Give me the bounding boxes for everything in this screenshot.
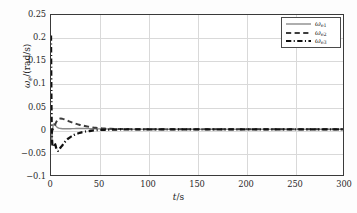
y-axis-unit: /(rad/s) xyxy=(22,44,32,77)
legend-item[interactable]: ωe3 xyxy=(285,37,338,46)
x-tick-label: 250 xyxy=(275,179,315,189)
figure-canvas: 0.250.20.150.10.050−0.05−0.1 05010015020… xyxy=(0,0,357,213)
x-tick-label: 300 xyxy=(324,179,357,189)
legend-line-swatch xyxy=(285,20,312,28)
legend-item[interactable]: ωe2 xyxy=(285,29,338,38)
y-axis-label: ωe/(rad/s) xyxy=(22,0,34,146)
x-axis-label: t/s xyxy=(0,192,357,202)
y-axis-symbol: ω xyxy=(22,81,32,88)
legend-label: ωe3 xyxy=(315,37,327,45)
legend-label: ωe1 xyxy=(315,20,327,28)
x-axis-unit: /s xyxy=(176,192,184,202)
legend-label: ωe2 xyxy=(315,29,327,37)
y-tick-label: −0.05 xyxy=(0,148,46,158)
x-tick-label: 100 xyxy=(128,179,168,189)
series-line-ωe3 xyxy=(51,36,343,151)
x-tick-label: 200 xyxy=(226,179,266,189)
legend-item[interactable]: ωe1 xyxy=(285,20,338,29)
legend-line-swatch xyxy=(285,37,312,45)
x-tick-label: 150 xyxy=(177,179,217,189)
y-axis-subscript: e xyxy=(26,77,34,81)
x-tick-label: 0 xyxy=(30,179,70,189)
legend-line-swatch xyxy=(285,29,312,37)
legend-box: ωe1ωe2ωe3 xyxy=(281,17,341,48)
x-tick-label: 50 xyxy=(79,179,119,189)
series-line-ωe1 xyxy=(51,124,343,143)
